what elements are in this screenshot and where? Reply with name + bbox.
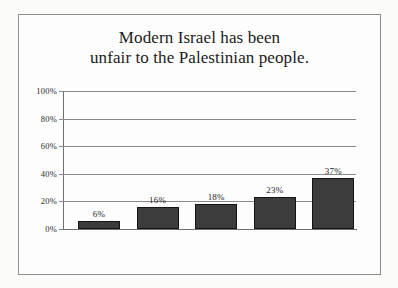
gridline-40: 40% (63, 174, 356, 175)
chart-title-line-2: unfair to the Palestinian people. (18, 48, 381, 68)
y-tick-mark-40 (59, 174, 63, 175)
y-tick-mark-20 (59, 201, 63, 202)
chart-title: Modern Israel has been unfair to the Pal… (18, 28, 381, 68)
y-tick-label-60: 60% (41, 141, 57, 151)
gridline-100: 100% (63, 91, 356, 92)
bar-strongly-agree[interactable] (78, 221, 120, 229)
bar-strongly-disagree[interactable] (254, 197, 296, 229)
bar-somewhat-agree[interactable] (137, 207, 179, 229)
chart-figure: Modern Israel has been unfair to the Pal… (0, 0, 398, 288)
y-tick-label-40: 40% (41, 169, 57, 179)
bar-value-strongly-agree: 6% (93, 209, 105, 219)
y-tick-label-0: 0% (45, 224, 57, 234)
y-tick-label-20: 20% (41, 196, 57, 206)
y-tick-label-100: 100% (36, 86, 57, 96)
bar-value-somewhat-disagree: 18% (208, 192, 225, 202)
bar-value-somewhat-agree: 16% (149, 195, 166, 205)
y-tick-mark-100 (59, 91, 63, 92)
bar-somewhat-disagree[interactable] (195, 204, 237, 229)
y-tick-label-80: 80% (41, 114, 57, 124)
y-tick-mark-60 (59, 146, 63, 147)
plot-area: 100% 80% 60% 40% 20% 0% 6% 16% (63, 91, 356, 229)
bar-value-not-sure: 37% (325, 166, 342, 176)
bar-value-strongly-disagree: 23% (266, 185, 283, 195)
gridline-60: 60% (63, 146, 356, 147)
bar-not-sure[interactable] (312, 178, 354, 229)
gridline-0: 0% (63, 229, 356, 230)
y-tick-mark-0 (59, 229, 63, 230)
gridline-80: 80% (63, 119, 356, 120)
chart-title-line-1: Modern Israel has been (18, 28, 381, 48)
y-tick-mark-80 (59, 119, 63, 120)
